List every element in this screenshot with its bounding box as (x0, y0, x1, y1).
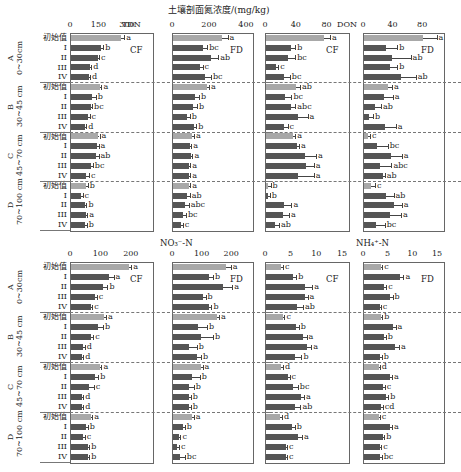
error-bar-cap (388, 395, 389, 400)
significance-letter: a (395, 93, 400, 101)
error-bar-cap (103, 325, 104, 330)
significance-letter: a (133, 263, 138, 271)
significance-letter: b (215, 273, 220, 281)
error-bar (198, 327, 207, 328)
error-bar-cap (307, 335, 308, 340)
significance-letter: c (285, 263, 289, 271)
bar-treatment (364, 284, 384, 290)
bar-treatment (71, 114, 88, 120)
bar-treatment (71, 404, 82, 410)
bar-initial (71, 35, 121, 41)
bar-initial (364, 314, 381, 320)
significance-letter: a (89, 211, 94, 219)
x-tick-label: 0 (262, 20, 267, 29)
bar-initial (364, 35, 423, 41)
error-bar-cap (401, 213, 402, 218)
significance-letter: c (101, 54, 105, 62)
error-bar-cap (279, 223, 280, 228)
bottom-axis-line (40, 462, 70, 463)
group-label: D70~100 cm (6, 417, 34, 457)
significance-letter: bc (297, 54, 307, 62)
significance-letter: b (388, 333, 393, 341)
error-bar-cap (308, 295, 309, 300)
bar-initial (173, 364, 201, 370)
bar-treatment (71, 344, 83, 350)
error-bar (391, 156, 402, 157)
error-bar-cap (219, 315, 220, 320)
error-bar-cap (385, 385, 386, 390)
significance-letter: d (85, 393, 90, 401)
error-bar-cap (92, 104, 93, 109)
significance-letter: a (101, 142, 106, 150)
significance-letter: c (372, 132, 376, 140)
bar-treatment (364, 444, 380, 450)
significance-letter: ab (220, 54, 230, 62)
significance-letter: a (401, 343, 406, 351)
error-bar-cap (314, 173, 315, 178)
error-bar-cap (386, 285, 387, 290)
significance-letter: a (309, 333, 314, 341)
significance-letter: bc (187, 453, 197, 461)
bar-treatment (71, 74, 89, 80)
bar-treatment (71, 153, 96, 159)
bar-treatment (173, 143, 190, 149)
significance-letter: a (194, 152, 199, 160)
significance-letter: b (375, 113, 380, 121)
x-tick-label: 5 (385, 249, 390, 258)
significance-letter: a (332, 34, 337, 42)
group-divider (265, 132, 366, 133)
significance-letter: b (90, 182, 95, 190)
significance-letter: b (90, 423, 95, 431)
group-divider (70, 181, 170, 182)
bar-treatment (364, 64, 390, 70)
bar-treatment (71, 202, 85, 208)
group-divider (70, 132, 170, 133)
significance-letter: a (405, 273, 410, 281)
bar-treatment (71, 374, 95, 380)
error-bar-cap (295, 55, 296, 60)
error-bar-cap (300, 85, 301, 90)
significance-letter: d (285, 363, 290, 371)
error-bar-cap (295, 45, 296, 50)
significance-letter: a (233, 263, 238, 271)
error-bar-cap (186, 213, 187, 218)
group-letter: D (6, 185, 15, 225)
error-bar-cap (190, 193, 191, 198)
bar-treatment (266, 74, 284, 80)
error-bar-cap (295, 134, 296, 139)
group-divider (265, 312, 366, 313)
error-bar-cap (83, 395, 84, 400)
bar-treatment (364, 424, 390, 430)
bar-initial (71, 84, 100, 90)
bar-treatment (71, 64, 90, 70)
x-axis-label: DON (337, 20, 357, 29)
x-tick-label: 150 (91, 20, 106, 29)
bar-treatment (266, 374, 288, 380)
significance-letter: b (202, 373, 207, 381)
error-bar-cap (289, 213, 290, 218)
significance-letter: c (182, 433, 186, 441)
significance-letter: c (181, 443, 185, 451)
x-tick-label: 10 (311, 249, 321, 258)
bar-treatment (173, 124, 194, 130)
bar-treatment (266, 324, 296, 330)
error-bar-cap (228, 35, 229, 40)
group-divider (363, 82, 461, 83)
significance-letter: bc (390, 142, 400, 150)
error-bar-cap (303, 305, 304, 310)
error-bar-cap (271, 183, 272, 188)
error-bar-cap (191, 144, 192, 149)
bar-treatment (266, 344, 307, 350)
x-tick-label: 100 (194, 249, 209, 258)
group-letter: D (6, 417, 15, 457)
bar-treatment (266, 173, 298, 179)
significance-letter: d (93, 63, 98, 71)
error-bar (288, 58, 296, 59)
significance-letter: bc (384, 453, 394, 461)
significance-letter: a (314, 283, 319, 291)
significance-letter: a (394, 423, 399, 431)
group-letter: B (6, 87, 15, 127)
significance-letter: bc (292, 73, 302, 81)
error-bar (384, 97, 393, 98)
error-bar-cap (203, 365, 204, 370)
